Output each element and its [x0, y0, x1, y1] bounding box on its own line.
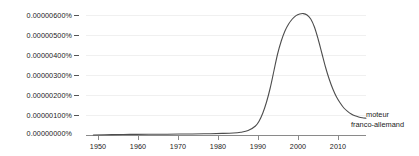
- y-axis-tick-label: 0.00000200%: [27, 92, 72, 100]
- gridline: [86, 55, 366, 56]
- x-axis-tick-mark: [138, 136, 139, 140]
- gridline: [86, 75, 366, 76]
- y-axis-tick-label: 0.00000300%: [27, 72, 72, 80]
- x-axis-tick-mark: [338, 136, 339, 140]
- y-axis-label-group: 0.00000600% 0.00000500% 0.00000400% 0.00…: [0, 0, 72, 156]
- x-axis-tick-label: 1950: [90, 142, 106, 151]
- x-axis-line: [86, 135, 366, 136]
- plot-area: 1950 1960 1970 1980 1990 2000 2010: [86, 0, 366, 156]
- series-legend-label-line-2: franco-allemand: [351, 120, 404, 130]
- x-axis-tick-label: 1970: [170, 142, 186, 151]
- gridline: [86, 35, 366, 36]
- x-axis-tick-label: 2010: [330, 142, 346, 151]
- x-axis-tick-mark: [218, 136, 219, 140]
- y-axis-tick-label: 0.00000000%: [27, 130, 72, 138]
- y-axis-tick-mark: [74, 35, 79, 36]
- y-axis-tick-mark: [74, 75, 79, 76]
- x-axis-tick-label: 2000: [290, 142, 306, 151]
- gridline: [86, 15, 366, 16]
- x-axis-tick-mark: [98, 136, 99, 140]
- y-axis-tick-mark: [74, 55, 79, 56]
- series-legend-label[interactable]: moteur franco-allemand: [351, 110, 404, 129]
- series-legend-label-line-1: moteur: [351, 110, 404, 120]
- x-axis-tick-mark: [258, 136, 259, 140]
- x-axis-tick-label: 1990: [250, 142, 266, 151]
- x-axis-tick-mark: [298, 136, 299, 140]
- y-axis-tick-mark: [74, 95, 79, 96]
- y-axis-tick-label: 0.00000500%: [27, 32, 72, 40]
- gridline: [86, 95, 366, 96]
- x-axis-tick-mark: [178, 136, 179, 140]
- ngram-viewer-chart: 0.00000600% 0.00000500% 0.00000400% 0.00…: [0, 0, 419, 156]
- y-axis-tick-mark: [74, 115, 79, 116]
- x-axis-tick-label: 1980: [210, 142, 226, 151]
- y-axis-tick-mark: [74, 15, 79, 16]
- x-axis-tick-label: 1960: [130, 142, 146, 151]
- y-axis-tick-label: 0.00000600%: [27, 12, 72, 20]
- y-axis-tick-label: 0.00000100%: [27, 112, 72, 120]
- y-axis-tick-label: 0.00000400%: [27, 52, 72, 60]
- gridline: [86, 115, 366, 116]
